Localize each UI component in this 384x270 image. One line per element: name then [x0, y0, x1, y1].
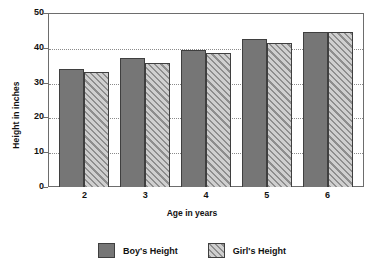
x-tick-label-5: 5 [242, 190, 292, 200]
y-tick-label-0: 0 [18, 181, 44, 191]
y-tick-label-50: 50 [18, 7, 44, 17]
x-tick-label-3: 3 [120, 190, 170, 200]
bar-group [303, 13, 353, 187]
legend-swatch-boy [98, 243, 115, 258]
x-tick-label-6: 6 [303, 190, 353, 200]
legend-label: Girl's Height [233, 246, 286, 256]
bar-boy-age-5 [242, 39, 267, 187]
x-tick-label-4: 4 [181, 190, 231, 200]
bar-girl-age-4 [206, 53, 231, 187]
x-tick-label-2: 2 [59, 190, 109, 200]
y-tick-label-10: 10 [18, 146, 44, 156]
bar-group [242, 13, 292, 187]
y-tick-label-20: 20 [18, 111, 44, 121]
bar-boy-age-2 [59, 69, 84, 187]
bar-group [59, 13, 109, 187]
bar-boy-age-6 [303, 32, 328, 187]
legend-swatch-girl [208, 243, 225, 258]
bar-group [181, 13, 231, 187]
bar-groups [48, 13, 364, 187]
chart-legend: Boy's HeightGirl's Height [0, 243, 384, 258]
bar-girl-age-2 [84, 72, 109, 187]
bar-group [120, 13, 170, 187]
bar-girl-age-5 [267, 43, 292, 187]
bar-boy-age-3 [120, 58, 145, 187]
legend-label: Boy's Height [123, 246, 178, 256]
legend-item: Boy's Height [98, 243, 178, 258]
bar-girl-age-3 [145, 63, 170, 187]
x-axis-title: Age in years [0, 208, 384, 218]
bar-chart: Height in inches 01020304050 23456 Age i… [0, 0, 384, 270]
bar-boy-age-4 [181, 50, 206, 187]
y-tick-label-30: 30 [18, 77, 44, 87]
y-tick-mark-0 [43, 187, 48, 188]
legend-item: Girl's Height [208, 243, 286, 258]
bar-girl-age-6 [328, 32, 353, 187]
x-axis-ticks: 23456 [48, 190, 364, 200]
y-tick-label-40: 40 [18, 42, 44, 52]
